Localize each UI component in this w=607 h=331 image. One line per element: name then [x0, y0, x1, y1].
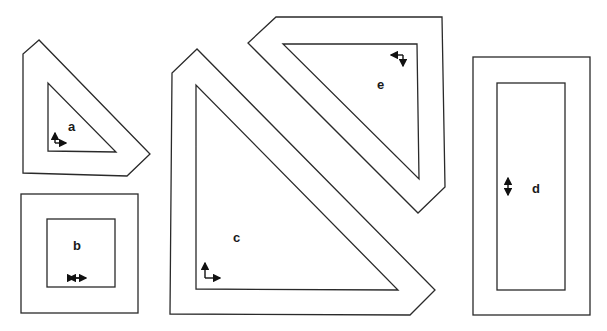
shape-a: [23, 40, 150, 176]
shape-b-outer: [21, 194, 138, 313]
shape-d-inner: [497, 83, 565, 290]
shape-c-outer: [170, 49, 435, 315]
label-d: d: [532, 182, 540, 195]
shape-a-outer: [23, 40, 150, 176]
diagram-canvas: [0, 0, 607, 331]
shape-e-outer: [248, 17, 445, 213]
corner-arrows-icon: [391, 55, 403, 66]
label-c: c: [233, 231, 240, 244]
shape-a-inner: [48, 83, 116, 152]
shape-e: [248, 17, 445, 213]
label-a: a: [68, 120, 75, 133]
label-b: b: [73, 239, 81, 252]
label-e: e: [377, 78, 384, 91]
corner-arrows-icon: [55, 133, 66, 143]
shape-e-inner: [283, 44, 419, 179]
shape-b-inner: [47, 219, 115, 287]
shape-c-inner: [196, 85, 398, 290]
shape-c: [170, 49, 435, 315]
corner-arrows-icon: [205, 263, 220, 278]
shape-b: [21, 194, 138, 313]
